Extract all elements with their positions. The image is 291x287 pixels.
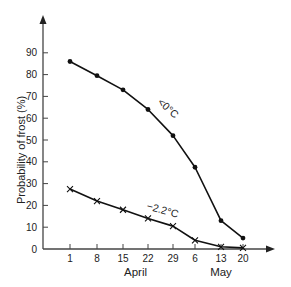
y-tick-label: 10 — [26, 222, 38, 233]
y-tick-label: 20 — [26, 200, 38, 211]
data-point-dot-icon — [146, 107, 151, 112]
data-point-dot-icon — [241, 236, 246, 241]
x-tick-label: 8 — [94, 253, 100, 264]
y-tick-label: 70 — [26, 91, 38, 102]
y-axis-ticks: 0102030405060708090 — [26, 47, 48, 254]
month-label-april: April — [124, 266, 147, 278]
x-tick-label: 20 — [237, 253, 249, 264]
x-axis-arrow-icon — [266, 246, 275, 253]
data-point-x-icon — [67, 186, 73, 192]
data-point-dot-icon — [219, 218, 224, 223]
data-point-dot-icon — [121, 87, 126, 92]
y-axis-label: Probability of frost (%) — [15, 96, 27, 204]
data-series: <0°C−2.2°C — [67, 59, 246, 251]
y-tick-label: 80 — [26, 69, 38, 80]
data-point-dot-icon — [68, 59, 73, 64]
y-tick-label: 50 — [26, 135, 38, 146]
month-label-may: May — [210, 266, 232, 278]
axes — [40, 15, 276, 253]
data-point-dot-icon — [193, 165, 198, 170]
data-point-dot-icon — [171, 133, 176, 138]
series-label-below-0c: <0°C — [156, 96, 182, 121]
data-point-dot-icon — [95, 73, 100, 78]
y-axis-arrow-icon — [40, 15, 47, 24]
y-tick-label: 60 — [26, 113, 38, 124]
x-tick-label: 1 — [67, 253, 73, 264]
y-tick-label: 0 — [31, 244, 37, 255]
y-tick-label: 40 — [26, 156, 38, 167]
x-tick-label: 29 — [167, 253, 179, 264]
frost-probability-chart: 0102030405060708090 1815222961320AprilMa… — [0, 0, 291, 287]
y-tick-label: 90 — [26, 47, 38, 58]
x-tick-label: 13 — [215, 253, 227, 264]
series-label-minus-2-2c: −2.2°C — [145, 199, 180, 220]
x-tick-label: 15 — [117, 253, 129, 264]
x-tick-label: 6 — [192, 253, 198, 264]
x-tick-label: 22 — [142, 253, 154, 264]
y-tick-label: 30 — [26, 178, 38, 189]
